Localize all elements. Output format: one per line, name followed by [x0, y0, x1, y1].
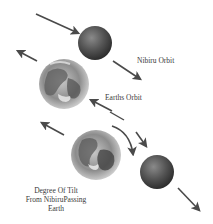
arrow-nibiru-orbit-icon: [113, 61, 140, 79]
tilt-caption-line-3: Earth: [16, 204, 96, 213]
earth-planet-top: [39, 59, 89, 109]
earths-orbit-label: Earths Orbit: [105, 93, 142, 102]
earth-planet-bottom: [71, 130, 121, 180]
tilt-caption-line-2: From NibiruPassing: [16, 195, 96, 204]
tilt-caption: Degree Of Tilt From NibiruPassing Earth: [16, 186, 96, 213]
nibiru-planet-bottom: [140, 155, 174, 189]
nibiru-orbit-label: Nibiru Orbit: [137, 56, 174, 65]
arrow-incoming-nibiru-icon: [36, 14, 78, 33]
nibiru-planet-top: [78, 26, 112, 60]
arrow-nibiru-outgoing-icon: [178, 188, 199, 210]
tilt-caption-line-1: Degree Of Tilt: [16, 186, 96, 195]
arrow-earth-orbit-lower-icon: [42, 123, 64, 135]
arrow-earth-orbit-upper-icon: [18, 51, 37, 61]
